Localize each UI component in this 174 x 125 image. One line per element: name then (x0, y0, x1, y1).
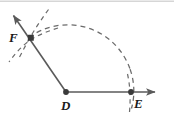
point-E-marker (128, 89, 134, 95)
point-label-D: D (61, 99, 70, 112)
point-D-marker (63, 89, 69, 95)
point-label-F: F (9, 31, 18, 44)
figure-canvas (0, 0, 174, 125)
geometry-figure: F D E (0, 0, 174, 125)
point-label-E: E (134, 97, 143, 110)
point-F-marker (28, 35, 34, 41)
figure-background (0, 0, 174, 125)
